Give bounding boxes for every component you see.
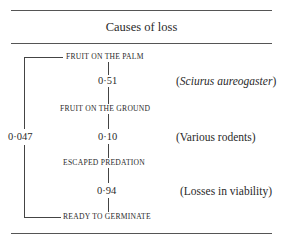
- stage-escaped-predation: ESCAPED PREDATION: [63, 158, 145, 168]
- probability-escaped-to-germinate: 0·94: [97, 185, 116, 197]
- overall-probability: 0·047: [8, 129, 33, 145]
- top-rule: [11, 10, 272, 11]
- stage-fruit-on-palm: FRUIT ON THE PALM: [66, 52, 144, 62]
- bracket-top-line: [24, 57, 63, 58]
- table-header: Causes of loss: [11, 19, 272, 35]
- stage-fruit-on-ground: FRUIT ON THE GROUND: [60, 104, 150, 114]
- cause-close-paren: ): [272, 75, 276, 87]
- bottom-rule: [11, 233, 272, 234]
- connector-line: [108, 144, 109, 158]
- connector-line: [108, 198, 109, 212]
- connector-line: [108, 114, 109, 129]
- cause-various-rodents: (Various rodents): [176, 130, 256, 144]
- cause-species-name: Sciurus aureogaster: [180, 75, 273, 87]
- connector-line: [108, 168, 109, 183]
- cause-squirrel-predation: (Sciurus aureogaster): [176, 74, 276, 88]
- cause-losses-in-viability: (Losses in viability): [180, 184, 272, 198]
- stage-ready-to-germinate: READY TO GERMINATE: [63, 212, 151, 222]
- header-rule: [11, 43, 272, 44]
- bracket-bottom-line: [24, 217, 61, 218]
- connector-line: [108, 87, 109, 104]
- connector-line: [108, 62, 109, 75]
- probability-ground-to-escaped: 0·10: [98, 131, 117, 143]
- probability-palm-to-ground: 0·51: [98, 75, 117, 87]
